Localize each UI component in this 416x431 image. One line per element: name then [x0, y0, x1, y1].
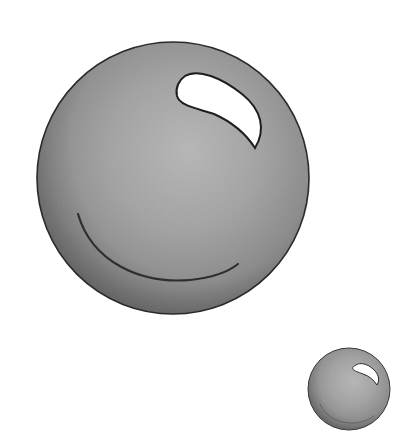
small-sphere — [308, 348, 390, 430]
scene-canvas — [0, 0, 416, 431]
large-sphere — [37, 42, 309, 314]
